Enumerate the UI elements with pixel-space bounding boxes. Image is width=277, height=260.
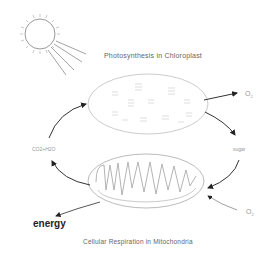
oxygen-in-label: O2 [246,208,254,217]
oxygen-out-label: O2 [245,90,253,99]
arrow-co2-to-chloroplast [49,104,86,138]
arrow-o2-to-mitochondrion [208,196,237,210]
sugar-label: sugar [233,146,246,152]
arrow-chloroplast-to-sugar [205,112,235,135]
mitochondrion-shape [88,154,204,208]
sunlight-rays [48,41,86,75]
respiration-title: Cellular Respiration in Mitochondria [83,238,193,245]
arrow-chloroplast-to-o2 [204,93,237,100]
sun-icon [20,14,86,75]
energy-label: energy [33,218,66,229]
co2-water-label: CO2+H2O [32,146,55,152]
arrow-mitochondrion-to-energy [56,202,100,216]
arrow-mitochondrion-to-co2 [52,161,90,185]
chloroplast-shape [88,74,208,134]
photosynthesis-title: Photosynthesis in Chloroplast [104,52,202,59]
arrow-sugar-to-mitochondrion [208,160,239,188]
